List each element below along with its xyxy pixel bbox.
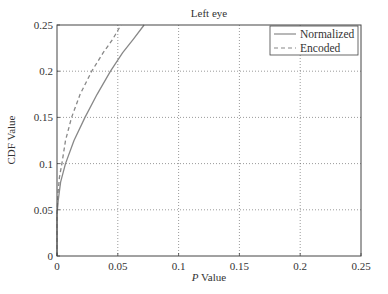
legend: Normalized Encoded bbox=[270, 26, 358, 55]
y-tick-label: 0.15 bbox=[34, 111, 54, 123]
plot-area-frame bbox=[57, 25, 361, 256]
y-tick-label: 0.1 bbox=[39, 158, 53, 170]
x-tick-label: 0.1 bbox=[172, 260, 186, 272]
y-axis-label: CDF Value bbox=[5, 115, 17, 164]
x-tick-label: 0.2 bbox=[293, 260, 307, 272]
legend-label-normalized: Normalized bbox=[300, 28, 355, 40]
legend-label-encoded: Encoded bbox=[300, 42, 340, 54]
series-line-normalized bbox=[57, 25, 144, 256]
y-tick-label: 0 bbox=[48, 250, 54, 262]
y-axis-ticks: 00.050.10.150.20.25 bbox=[34, 19, 60, 262]
chart-title: Left eye bbox=[191, 7, 227, 19]
x-axis-label-rest: Value bbox=[199, 271, 227, 283]
y-tick-label: 0.05 bbox=[34, 204, 54, 216]
x-tick-label: 0.15 bbox=[230, 260, 250, 272]
x-axis-label: P Value bbox=[191, 271, 226, 283]
x-tick-label: 0.25 bbox=[351, 260, 371, 272]
series-line-encoded bbox=[57, 25, 121, 256]
x-tick-label: 0.05 bbox=[108, 260, 128, 272]
x-tick-label: 0 bbox=[54, 260, 60, 272]
data-series bbox=[57, 25, 144, 256]
y-tick-label: 0.2 bbox=[39, 65, 53, 77]
cdf-line-chart: 00.050.10.150.20.25 00.050.10.150.20.25 … bbox=[0, 0, 388, 294]
y-tick-label: 0.25 bbox=[34, 19, 54, 31]
grid-lines bbox=[57, 25, 361, 256]
